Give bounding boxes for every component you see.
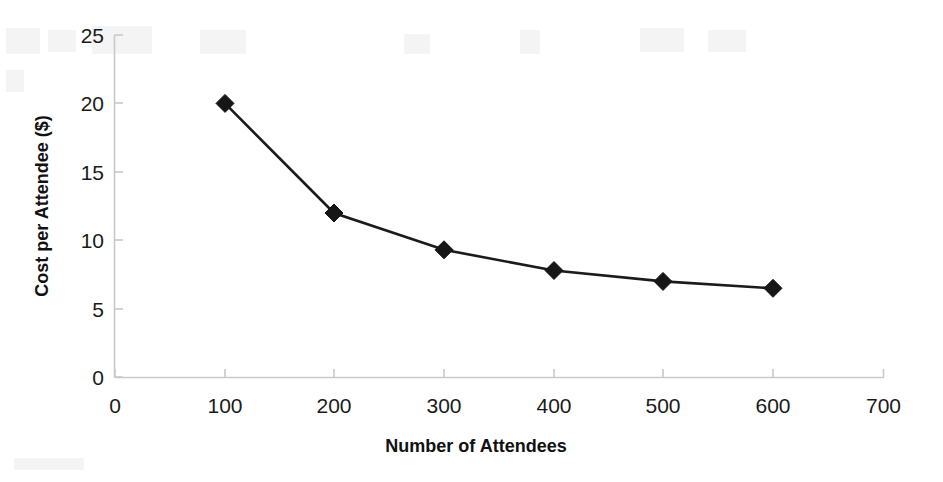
series-cost-per-attendee	[216, 94, 782, 297]
x-tick-label-200: 200	[316, 394, 351, 417]
line-chart: 25 20 15 10 5 0 0 100 200 300 400 500 60…	[0, 0, 943, 482]
y-axis-ticks	[115, 35, 124, 377]
x-tick-label-300: 300	[426, 394, 461, 417]
x-axis-ticks	[115, 369, 884, 378]
x-tick-label-400: 400	[536, 394, 571, 417]
y-tick-label-20: 20	[81, 92, 104, 115]
y-tick-label-10: 10	[81, 229, 104, 252]
x-tick-label-500: 500	[645, 394, 680, 417]
y-tick-label-25: 25	[81, 24, 104, 47]
y-tick-label-5: 5	[92, 298, 104, 321]
y-axis-title: Cost per Attendee ($)	[32, 115, 52, 296]
y-tick-labels: 25 20 15 10 5 0	[81, 24, 104, 389]
x-tick-labels: 0 100 200 300 400 500 600 700	[109, 394, 901, 417]
data-point-500	[654, 272, 672, 290]
x-tick-label-0: 0	[109, 394, 121, 417]
y-tick-label-0: 0	[92, 366, 104, 389]
data-point-400	[545, 262, 563, 280]
chart-page: 25 20 15 10 5 0 0 100 200 300 400 500 60…	[0, 0, 943, 482]
data-point-600	[764, 279, 782, 297]
x-tick-label-700: 700	[866, 394, 901, 417]
x-tick-label-600: 600	[755, 394, 790, 417]
series-line-path	[225, 103, 773, 288]
plot-axes	[115, 35, 885, 378]
y-tick-label-15: 15	[81, 161, 104, 184]
x-tick-label-100: 100	[207, 394, 242, 417]
x-axis-title: Number of Attendees	[385, 436, 566, 456]
data-point-300	[435, 241, 453, 259]
